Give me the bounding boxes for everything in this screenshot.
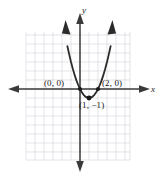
point-root-marker	[96, 87, 100, 91]
grid-lines	[26, 32, 130, 160]
parabola-graph-figure: (0, 0) (2, 0) (1, −1) x y	[0, 0, 167, 176]
x-axis-label: x	[151, 85, 155, 94]
point-label-origin: (0, 0)	[44, 79, 64, 88]
point-origin-marker	[78, 87, 82, 91]
y-axis-bottom-arrowhead	[76, 161, 84, 172]
y-axis-label: y	[82, 6, 86, 15]
point-label-vertex: (1, −1)	[79, 101, 104, 110]
parabola-left-arrowhead	[62, 20, 71, 34]
x-axis-right-arrowhead	[139, 85, 150, 93]
point-label-root: (2, 0)	[102, 79, 122, 88]
x-axis-left-arrowhead	[8, 85, 19, 93]
parabola-right-arrowhead	[108, 20, 117, 34]
coordinate-plane-svg	[0, 0, 167, 176]
